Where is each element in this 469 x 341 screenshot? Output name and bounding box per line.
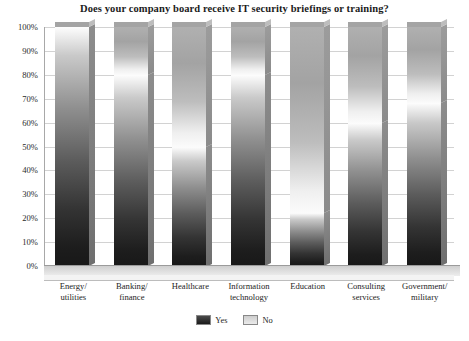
bar-segment-yes-side (265, 72, 271, 266)
bar-top-face (172, 22, 206, 27)
legend-item[interactable]: Yes (196, 315, 227, 325)
bar-segment-no[interactable] (114, 27, 148, 75)
x-axis-tick-label-line: technology (212, 292, 287, 303)
y-axis-tick-label: 20% (0, 213, 44, 223)
y-axis-tick-label: 10% (0, 237, 44, 247)
bar-top-face (290, 22, 324, 27)
bar-group[interactable] (290, 27, 330, 266)
bar-segment-yes-side (148, 72, 154, 266)
y-axis-tick-label: 50% (0, 142, 44, 152)
bar-top-face (348, 22, 382, 27)
y-axis-tick-label: 40% (0, 165, 44, 175)
bar-segment-yes[interactable] (290, 213, 324, 266)
bar-segment-yes-side (206, 144, 212, 266)
bar-segment-yes-side (324, 210, 330, 266)
y-axis-tick-label: 100% (0, 22, 44, 32)
legend-swatch-icon (196, 315, 211, 325)
bar-segment-yes[interactable] (407, 103, 441, 266)
bar-segment-no[interactable] (172, 27, 206, 147)
bar-series-group (44, 27, 454, 266)
bar-top-face (114, 22, 148, 27)
x-axis-tick-label-line: military (387, 292, 462, 303)
y-axis-tick-label: 0% (0, 261, 44, 271)
bar-stack (407, 27, 441, 266)
bar-segment-no[interactable] (348, 27, 382, 123)
bar-group[interactable] (231, 27, 271, 266)
chart-container: Does your company board receive IT secur… (0, 0, 469, 341)
bar-segment-no-side (441, 24, 447, 103)
bar-group[interactable] (348, 27, 388, 266)
y-axis-tick-label: 70% (0, 94, 44, 104)
bar-top-face (231, 22, 265, 27)
legend-item[interactable]: No (243, 315, 272, 325)
x-axis-tick-labels: Energy/utilitiesBanking/financeHealthcar… (44, 281, 460, 315)
bar-stack (172, 27, 206, 266)
bar-stack (55, 27, 89, 266)
bar-top-face (55, 22, 89, 27)
legend-label: Yes (215, 316, 227, 325)
bar-segment-yes[interactable] (231, 75, 265, 266)
bar-segment-no-side (206, 24, 212, 146)
bar-segment-no[interactable] (231, 27, 265, 75)
bar-stack (290, 27, 324, 266)
x-axis-tick-label: Government/military (387, 281, 462, 302)
bar-segment-yes-side (382, 120, 388, 266)
y-axis-tick-label: 80% (0, 70, 44, 80)
bar-stack (114, 27, 148, 266)
bar-group[interactable] (55, 27, 95, 266)
bar-stack (348, 27, 382, 266)
bar-segment-no[interactable] (290, 27, 324, 213)
bar-segment-no-side (265, 24, 271, 75)
chart-legend: YesNo (0, 315, 469, 325)
bar-segment-yes[interactable] (114, 75, 148, 266)
legend-swatch-icon (243, 315, 258, 325)
bar-segment-yes[interactable] (55, 27, 89, 266)
y-axis-tick-label: 60% (0, 118, 44, 128)
bar-stack (231, 27, 265, 266)
bar-segment-no-side (382, 24, 388, 123)
bar-top-face (407, 22, 441, 27)
bar-segment-yes-side (89, 24, 95, 266)
y-axis-tick-label: 30% (0, 189, 44, 199)
chart-title: Does your company board receive IT secur… (0, 3, 469, 14)
bar-segment-no-side (324, 24, 330, 213)
bar-segment-yes[interactable] (172, 147, 206, 267)
bar-segment-yes-side (441, 101, 447, 266)
bar-segment-no[interactable] (407, 27, 441, 103)
bar-group[interactable] (407, 27, 447, 266)
x-axis-tick-label-line: Government/ (387, 281, 462, 292)
legend-label: No (262, 316, 272, 325)
bar-segment-no-side (148, 24, 154, 75)
bar-group[interactable] (172, 27, 212, 266)
bar-group[interactable] (114, 27, 154, 266)
bar-segment-yes[interactable] (348, 123, 382, 266)
plot-area (44, 27, 454, 266)
y-axis-tick-label: 90% (0, 46, 44, 56)
x-axis-tick-label-line: finance (95, 292, 170, 303)
